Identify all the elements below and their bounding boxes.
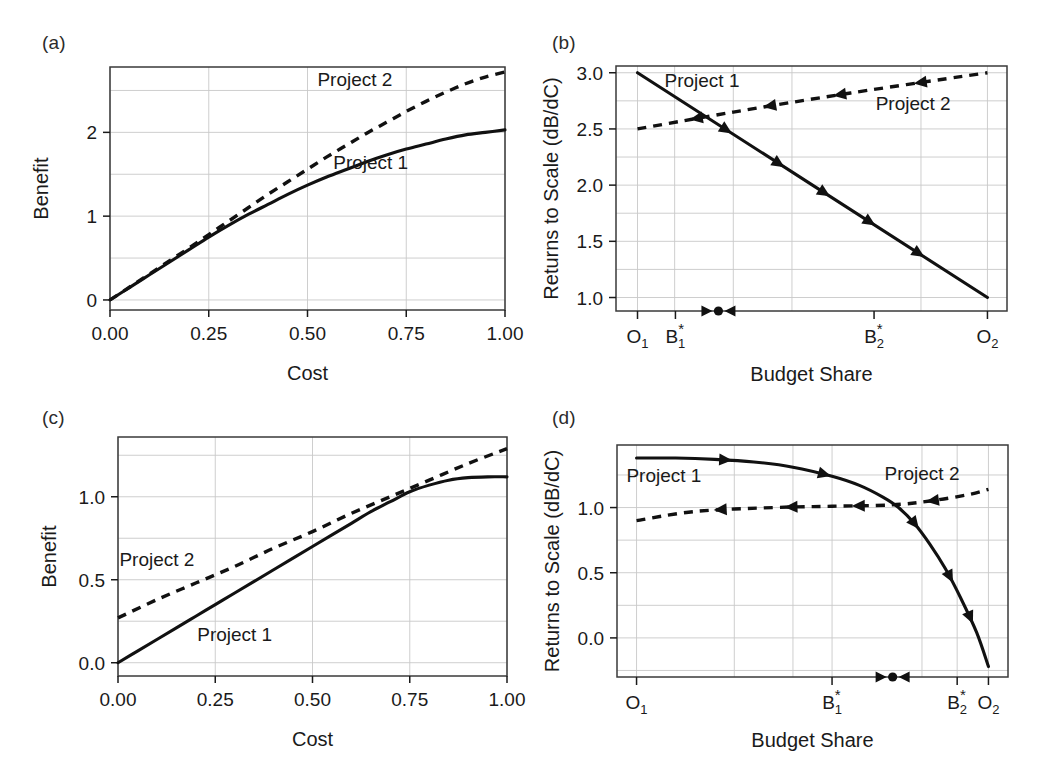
x-axis-tick-label: 0.25 bbox=[190, 323, 227, 344]
equilibrium-arrow-right bbox=[876, 672, 887, 683]
equilibrium-arrow-left bbox=[899, 672, 910, 683]
figure-root: (a) 0120.000.250.500.751.00CostBenefitPr… bbox=[0, 0, 1048, 783]
direction-arrow bbox=[852, 500, 865, 512]
direction-arrow bbox=[910, 245, 927, 262]
y-axis-tick-label: 1 bbox=[86, 206, 97, 227]
x-axis-category-label: O1 bbox=[626, 326, 648, 351]
series-label: Project 1 bbox=[197, 624, 272, 645]
series-label: Project 2 bbox=[317, 69, 392, 90]
plot-area-d: 0.00.51.0O1B*1B*2O2Budget ShareReturns t… bbox=[541, 445, 1008, 751]
y-axis-tick-label: 1.0 bbox=[79, 487, 105, 508]
x-axis-category-label: B*1 bbox=[666, 320, 686, 351]
equilibrium-arrow-left bbox=[724, 306, 735, 317]
x-axis-tick-label: 0.50 bbox=[289, 323, 326, 344]
y-axis-tick-label: 0 bbox=[86, 290, 97, 311]
direction-arrow bbox=[816, 184, 833, 201]
panel-c: (c) 0.00.51.00.000.250.500.751.00CostBen… bbox=[0, 392, 524, 783]
x-axis-category-label: O1 bbox=[626, 692, 648, 717]
panel-b-chart: 1.01.52.02.53.0O1B*1B*2O2Budget ShareRet… bbox=[524, 0, 1048, 392]
y-axis-tick-label: 1.0 bbox=[578, 498, 604, 519]
equilibrium-dot bbox=[888, 672, 897, 681]
y-axis-tick-label: 0.5 bbox=[79, 570, 105, 591]
x-axis-tick-label: 0.50 bbox=[294, 689, 331, 710]
y-axis-tick-label: 0.5 bbox=[578, 563, 604, 584]
direction-arrow bbox=[942, 569, 959, 586]
x-axis-tick-label: 0.75 bbox=[388, 323, 425, 344]
direction-arrow bbox=[913, 76, 928, 90]
panel-d: (d) 0.00.51.0O1B*1B*2O2Budget ShareRetur… bbox=[524, 392, 1048, 783]
series-label: Project 2 bbox=[119, 549, 194, 570]
x-axis-title: Cost bbox=[287, 362, 329, 384]
panel-a: (a) 0120.000.250.500.751.00CostBenefitPr… bbox=[0, 0, 524, 392]
direction-arrow bbox=[784, 501, 797, 513]
x-axis-category-label: B*1 bbox=[822, 686, 842, 717]
x-axis-category-label: O2 bbox=[976, 326, 998, 351]
series-label: Project 2 bbox=[876, 93, 951, 114]
panel-c-label: (c) bbox=[42, 407, 65, 429]
y-axis-tick-label: 2 bbox=[86, 122, 97, 143]
plot-area-b: 1.01.52.02.53.0O1B*1B*2O2Budget ShareRet… bbox=[540, 63, 1007, 385]
direction-arrow bbox=[925, 494, 939, 508]
y-axis-tick-label: 0.0 bbox=[578, 628, 604, 649]
equilibrium-arrow-right bbox=[701, 306, 712, 317]
y-axis-tick-label: 2.0 bbox=[577, 175, 603, 196]
direction-arrow bbox=[719, 453, 733, 466]
x-axis-category-label: B*2 bbox=[947, 686, 967, 717]
x-axis-category-label: O2 bbox=[977, 692, 999, 717]
x-axis-tick-label: 0.00 bbox=[92, 323, 129, 344]
x-axis-title: Budget Share bbox=[751, 729, 873, 751]
series-label: Project 2 bbox=[884, 463, 959, 484]
y-axis-tick-label: 1.0 bbox=[577, 288, 603, 309]
series-label: Project 1 bbox=[626, 465, 701, 486]
x-axis-title: Budget Share bbox=[750, 363, 872, 385]
y-axis-tick-label: 2.5 bbox=[577, 119, 603, 140]
direction-arrow bbox=[962, 609, 978, 626]
series-label: Project 1 bbox=[333, 152, 408, 173]
series-label: Project 1 bbox=[665, 70, 740, 91]
direction-arrow bbox=[713, 503, 727, 516]
y-axis-title: Returns to Scale (dB/dC) bbox=[541, 450, 563, 672]
y-axis-tick-label: 3.0 bbox=[577, 63, 603, 84]
panel-d-label: (d) bbox=[552, 407, 576, 429]
direction-arrow bbox=[770, 155, 787, 172]
x-axis-tick-label: 1.00 bbox=[487, 323, 524, 344]
x-axis-title: Cost bbox=[292, 728, 334, 750]
x-axis-tick-label: 0.75 bbox=[391, 689, 428, 710]
x-axis-category-label: B*2 bbox=[864, 320, 884, 351]
plot-area-c: 0.00.51.00.000.250.500.751.00CostBenefit… bbox=[38, 437, 525, 750]
y-axis-tick-label: 0.0 bbox=[79, 653, 105, 674]
panel-a-chart: 0120.000.250.500.751.00CostBenefitProjec… bbox=[0, 0, 524, 392]
plot-area-a: 0120.000.250.500.751.00CostBenefitProjec… bbox=[30, 67, 523, 384]
panel-b: (b) 1.01.52.02.53.0O1B*1B*2O2Budget Shar… bbox=[524, 0, 1048, 392]
y-axis-title: Returns to Scale (dB/dC) bbox=[540, 77, 562, 299]
direction-arrow bbox=[861, 214, 878, 231]
x-axis-tick-label: 0.00 bbox=[100, 689, 137, 710]
direction-arrow bbox=[718, 121, 735, 138]
series-curve bbox=[637, 489, 989, 520]
panel-d-chart: 0.00.51.0O1B*1B*2O2Budget ShareReturns t… bbox=[524, 392, 1048, 783]
y-axis-title: Benefit bbox=[30, 157, 52, 220]
y-axis-tick-label: 1.5 bbox=[577, 231, 603, 252]
x-axis-tick-label: 1.00 bbox=[489, 689, 526, 710]
panel-c-chart: 0.00.51.00.000.250.500.751.00CostBenefit… bbox=[0, 392, 524, 783]
panel-a-label: (a) bbox=[42, 32, 66, 54]
equilibrium-dot bbox=[714, 306, 723, 315]
y-axis-title: Benefit bbox=[38, 525, 60, 588]
x-axis-tick-label: 0.25 bbox=[197, 689, 234, 710]
panel-b-label: (b) bbox=[552, 32, 576, 54]
series-curve bbox=[637, 458, 989, 667]
